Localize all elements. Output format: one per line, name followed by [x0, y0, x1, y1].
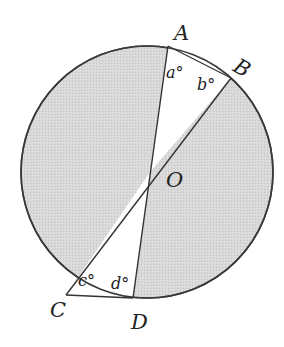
circle	[21, 46, 273, 298]
label-b: B	[228, 53, 254, 82]
label-a: A	[172, 21, 189, 45]
angle-a: a°	[166, 63, 184, 82]
angle-b: b°	[197, 75, 215, 94]
circle-diagram: A B C D O a° b° c° d°	[0, 0, 284, 347]
angle-c: c°	[78, 271, 95, 290]
label-c: C	[50, 298, 66, 322]
label-d: D	[130, 310, 148, 334]
label-o: O	[166, 168, 183, 192]
angle-d: d°	[111, 274, 129, 293]
